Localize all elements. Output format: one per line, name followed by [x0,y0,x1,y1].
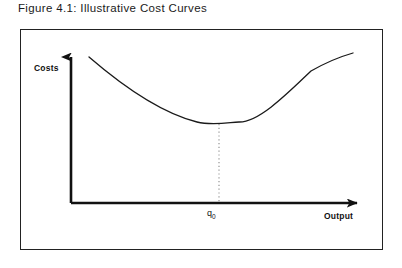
figure-caption: Figure 4.1: Illustrative Cost Curves [18,2,207,14]
q0-axis-annotation: q0 [207,208,216,220]
q0-subscript: 0 [212,213,216,220]
figure-container: Figure 4.1: Illustrative Cost Curves Cos… [0,0,402,268]
cost-curve-path [89,53,353,124]
y-axis-label: Costs [34,63,59,73]
chart-frame: Costs Output q0 [20,29,383,250]
x-axis-label: Output [324,211,353,221]
